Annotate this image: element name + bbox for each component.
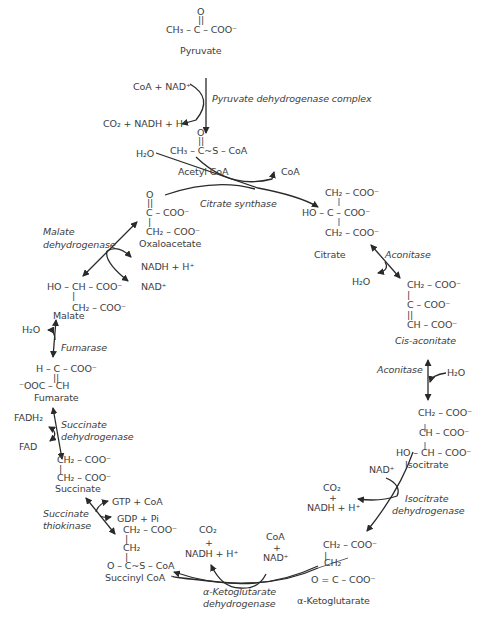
succinate-label: Succinate <box>55 483 101 494</box>
stk-gdp-pi: GDP + Pi <box>117 513 159 524</box>
oaa-line-2: CH₂ – COO⁻ <box>146 226 200 237</box>
fumarate-line-1: H – C – COO⁻ <box>36 363 97 374</box>
akg-line-3: O = C – COO⁻ <box>311 574 375 585</box>
citrate-line-1: CH₂ – COO⁻ <box>325 187 379 198</box>
citrate-label: Citrate <box>314 249 346 260</box>
isocitrate-line-2: CH – COO⁻ <box>419 427 469 438</box>
akg-line-1: CH₂ – COO⁻ <box>323 539 377 550</box>
acetyl-coa-label: Acetyl CoA <box>178 166 228 177</box>
akg-dh-plus-out: + <box>205 537 213 548</box>
pdh-enzyme-label: Pyruvate dehydrogenase complex <box>212 93 372 104</box>
sdh-enzyme-2: dehydrogenase <box>61 431 133 442</box>
aconitase-2-h2o <box>430 373 446 382</box>
cis-aconitate-line-2: C – COO⁻ <box>407 299 450 310</box>
akg-dh-co2: CO₂ <box>199 524 217 535</box>
sdh-fad: FAD <box>19 441 37 452</box>
cis-aconitate-label: Cis-aconitate <box>395 335 456 346</box>
succinyl-coa-label: Succinyl CoA <box>105 572 165 583</box>
mdh-nad <box>107 251 128 281</box>
tca-cycle-diagram: O || CH₃ – C – COO⁻ Pyruvate CoA + NAD⁺ … <box>0 0 479 618</box>
isocitrate-line-3: HO – CH – COO⁻ <box>396 447 471 458</box>
acetyl-coa-formula: CH₃ – C~S – CoA <box>170 145 247 156</box>
stk-gtp <box>96 501 108 512</box>
mdh-enzyme-1: Malate <box>43 226 74 237</box>
fumarase-label: Fumarase <box>61 342 107 353</box>
mdh-nadh-label: NADH + H⁺ <box>141 261 194 272</box>
pyruvate-formula: CH₃ – C – COO⁻ <box>166 24 237 35</box>
stk-gtp-coa: GTP + CoA <box>112 496 163 507</box>
succinate-line-2: CH₂ – COO⁻ <box>57 472 111 483</box>
citrate-synthase-coa-label: CoA <box>281 166 300 177</box>
fumarate-label: Fumarate <box>34 392 79 403</box>
idh-enzyme-2: dehydrogenase <box>392 505 464 516</box>
oaa-line-1: C – COO⁻ <box>146 207 189 218</box>
stk-gdp <box>100 516 111 517</box>
mdh-enzyme-2: dehydrogenase <box>43 239 115 250</box>
sdh-fad <box>49 427 55 441</box>
sdh-fadh2: FADH₂ <box>14 412 43 423</box>
aconitase-1-label: Aconitase <box>385 249 431 260</box>
citrate-line-2: HO – C – COO⁻ <box>302 207 370 218</box>
aconitase-2-h2o-label: H₂O <box>447 367 465 378</box>
idh-enzyme-1: Isocitrate <box>405 493 448 504</box>
akg-dh-in <box>211 565 266 588</box>
akg-dh-nadh: NADH + H⁺ <box>185 548 238 559</box>
isocitrate-label: Isocitrate <box>405 459 448 470</box>
idh-nadh: NADH + H⁺ <box>307 502 360 513</box>
citrate-line-3: CH₂ – COO⁻ <box>325 227 379 238</box>
isocitrate-line-1: CH₂ – COO⁻ <box>418 407 472 418</box>
sdh-enzyme-1: Succinate <box>61 419 107 430</box>
stk-enzyme-2: thiokinase <box>43 520 91 531</box>
cis-aconitate-line-1: CH₂ – COO⁻ <box>407 279 461 290</box>
mdh-nad-label: NAD⁺ <box>141 281 167 292</box>
citrate-synthase-h2o-label: H₂O <box>136 148 154 159</box>
akg-line-2: CH₂ <box>324 557 341 568</box>
akg-dh-enzyme-2: dehydrogenase <box>203 598 275 609</box>
succinyl-coa-line-1: CH₂ – COO⁻ <box>123 524 177 535</box>
akg-dh-coa: CoA <box>266 531 285 542</box>
succinyl-coa-line-3: O – C~S – CoA <box>107 560 174 571</box>
malate-label: Malate <box>53 310 84 321</box>
idh-nad-label: NAD⁺ <box>369 464 395 475</box>
malate-bond: | <box>72 290 75 301</box>
citrate-synthase-label: Citrate synthase <box>200 198 277 209</box>
aconitase-2-label: Aconitase <box>377 364 423 375</box>
malate-line-1: HO – CH – COO⁻ <box>47 281 122 292</box>
aconitase-1-h2o <box>378 262 386 273</box>
fumarate-line-2: ⁻OOC – CH <box>19 380 69 391</box>
citrate-synthase-oaa <box>165 185 255 195</box>
pdh-cofactor-in: CoA + NAD⁺ <box>133 81 191 92</box>
pyruvate-label: Pyruvate <box>180 45 222 56</box>
akg-dh-enzyme-1: α-Ketoglutarate <box>203 586 276 597</box>
akg-dh-main <box>174 566 318 584</box>
akg-label: α-Ketoglutarate <box>297 595 370 606</box>
cis-aconitate-line-3: CH – COO⁻ <box>407 319 457 330</box>
oaa-label: Oxaloacetate <box>139 238 201 249</box>
succinate-line-1: CH₂ – COO⁻ <box>57 454 111 465</box>
aconitase-1-h2o-label: H₂O <box>352 276 370 287</box>
akg-dh-nad: NAD⁺ <box>263 552 289 563</box>
stk-enzyme-1: Succinate <box>43 508 89 519</box>
pdh-cofactor-out: CO₂ + NADH + H⁺ <box>103 118 188 129</box>
akg-dh-arrow <box>172 568 318 583</box>
fumarase-h2o-label: H₂O <box>22 324 40 335</box>
